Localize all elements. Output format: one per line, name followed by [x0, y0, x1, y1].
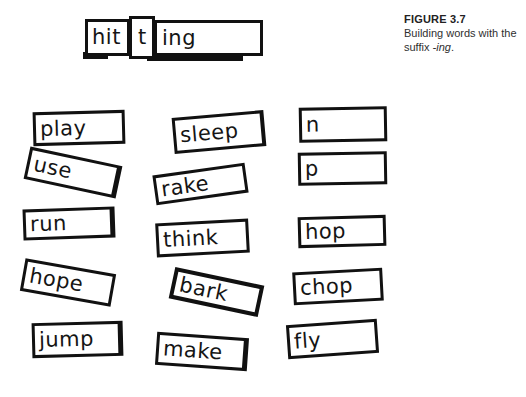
- word-card-make: make: [155, 332, 249, 371]
- word-card-hope: hope: [20, 258, 116, 306]
- word-card-think: think: [155, 219, 250, 258]
- word-card-jump: jump: [32, 321, 124, 358]
- word-card-play: play: [33, 110, 126, 146]
- caption-line-1: Building words with the: [404, 27, 526, 41]
- word-card-sleep: sleep: [172, 110, 267, 154]
- builder-segment-t: t: [129, 16, 155, 59]
- word-card-rake: rake: [152, 163, 248, 206]
- builder-segment-ing: ing: [154, 20, 263, 56]
- word-card-run: run: [22, 206, 115, 240]
- word-card-n: n: [299, 106, 388, 143]
- word-card-fly: fly: [286, 319, 379, 359]
- word-card-p: p: [298, 151, 388, 186]
- word-card-bark: bark: [169, 267, 265, 317]
- caption-title: FIGURE 3.7: [404, 13, 526, 25]
- figure-caption: FIGURE 3.7 Building words with the suffi…: [404, 13, 526, 54]
- builder-segment-hit: hit: [85, 19, 130, 56]
- caption-ing-italic: -ing: [433, 41, 451, 53]
- caption-text: Building words with the suffix -ing.: [404, 27, 526, 54]
- builder-card-hitting: hit t ing: [85, 16, 263, 59]
- figure-page: hit t ing FIGURE 3.7 Building words with…: [0, 0, 526, 397]
- word-card-chop: chop: [292, 268, 384, 306]
- word-card-use: use: [24, 147, 123, 199]
- word-card-hop: hop: [298, 215, 387, 248]
- caption-line-2: suffix -ing.: [404, 41, 526, 55]
